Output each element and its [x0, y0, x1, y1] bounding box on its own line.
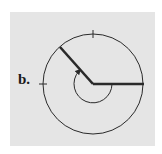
angle-arc — [74, 71, 112, 103]
terminal-ray — [60, 47, 93, 84]
angle-diagram — [0, 0, 162, 154]
